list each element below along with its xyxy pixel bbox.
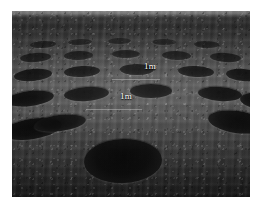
field-photograph: 1m 1m [12,11,250,197]
scale-label-lower: 1m [120,92,132,101]
figure-container: 1m 1m [0,0,260,203]
scale-label-upper: 1m [144,62,156,71]
scale-rule-2 [86,109,142,110]
scale-rule-1 [112,79,160,80]
photo-vignette [12,11,250,197]
